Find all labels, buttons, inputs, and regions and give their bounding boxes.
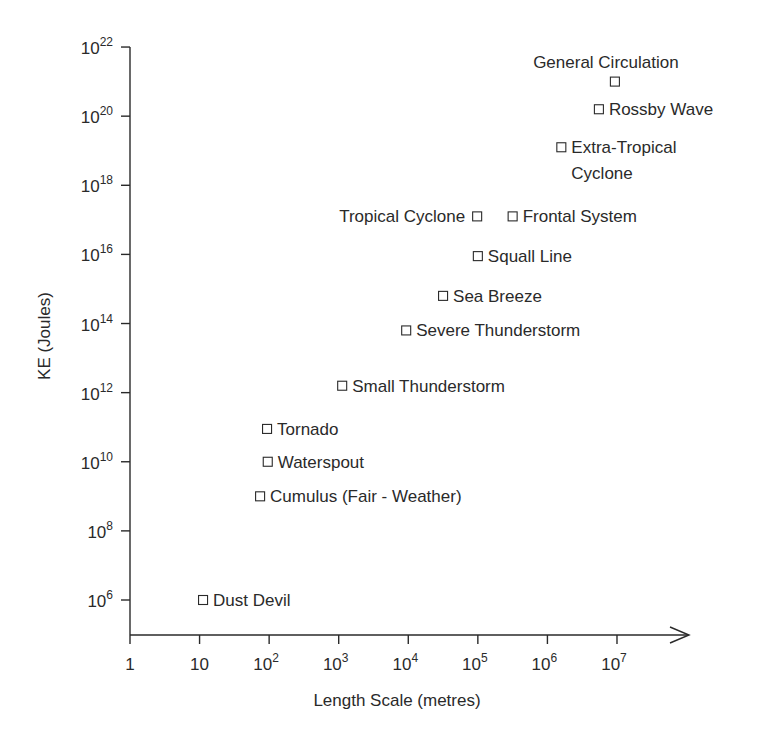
open-square-marker-icon <box>199 596 208 605</box>
y-axis-title: KE (Joules) <box>35 292 54 380</box>
data-point-label: Tropical Cyclone <box>339 207 465 226</box>
data-point-label: Cumulus (Fair - Weather) <box>270 487 461 506</box>
data-point-label: Extra-Tropical <box>571 138 676 157</box>
data-point: Frontal System <box>508 207 637 226</box>
data-point-label: Rossby Wave <box>609 100 713 119</box>
open-square-marker-icon <box>338 381 347 390</box>
data-point: General Circulation <box>533 53 679 87</box>
data-point: Cumulus (Fair - Weather) <box>256 487 462 506</box>
data-point-label: Waterspout <box>278 453 365 472</box>
open-square-marker-icon <box>473 212 482 221</box>
y-tick-label: 1018 <box>81 173 114 196</box>
open-square-marker-icon <box>508 212 517 221</box>
y-tick-label: 1022 <box>81 35 114 58</box>
x-ticks: 110102103104105106107 <box>125 635 627 674</box>
y-tick-label: 1020 <box>81 104 114 127</box>
ke-vs-length-scale-chart: 1061081010101210141016101810201022 11010… <box>0 0 764 747</box>
data-point: Sea Breeze <box>439 287 542 306</box>
data-point: Rossby Wave <box>594 100 713 119</box>
x-tick-label: 107 <box>601 651 627 674</box>
y-tick-label: 106 <box>87 588 113 611</box>
open-square-marker-icon <box>439 291 448 300</box>
data-point: Tornado <box>263 420 339 439</box>
open-square-marker-icon <box>402 326 411 335</box>
x-tick-label: 10 <box>190 655 209 674</box>
y-tick-label: 1014 <box>81 312 114 335</box>
data-point-label: General Circulation <box>533 53 679 72</box>
y-tick-label: 108 <box>87 519 113 542</box>
data-point: Dust Devil <box>199 591 291 610</box>
data-point: Severe Thunderstorm <box>402 321 581 340</box>
data-point: Small Thunderstorm <box>338 377 505 396</box>
x-axis-title: Length Scale (metres) <box>313 691 480 710</box>
x-tick-label: 103 <box>323 651 349 674</box>
x-axis: 110102103104105106107 <box>125 627 689 674</box>
open-square-marker-icon <box>610 77 619 86</box>
data-point-label: Small Thunderstorm <box>352 377 505 396</box>
data-point-label: Squall Line <box>488 247 572 266</box>
open-square-marker-icon <box>473 252 482 261</box>
data-point: Tropical Cyclone <box>339 207 481 226</box>
x-tick-label: 104 <box>392 651 418 674</box>
open-square-marker-icon <box>263 457 272 466</box>
open-square-marker-icon <box>594 105 603 114</box>
data-point: Extra-TropicalCyclone <box>557 138 677 183</box>
y-ticks: 1061081010101210141016101810201022 <box>81 35 130 611</box>
data-points: Dust DevilCumulus (Fair - Weather)Waters… <box>199 53 714 610</box>
data-point: Waterspout <box>263 453 364 472</box>
data-point-label: Cyclone <box>571 164 632 183</box>
x-tick-label: 102 <box>253 651 279 674</box>
x-tick-label: 105 <box>462 651 488 674</box>
open-square-marker-icon <box>557 143 566 152</box>
x-tick-label: 106 <box>532 651 558 674</box>
data-point: Squall Line <box>473 247 572 266</box>
data-point-label: Tornado <box>277 420 338 439</box>
y-axis: 1061081010101210141016101810201022 <box>81 35 130 635</box>
open-square-marker-icon <box>256 492 265 501</box>
y-tick-label: 1016 <box>81 242 114 265</box>
x-tick-label: 1 <box>125 655 134 674</box>
y-tick-label: 1010 <box>81 450 114 473</box>
data-point-label: Severe Thunderstorm <box>416 321 580 340</box>
data-point-label: Dust Devil <box>213 591 290 610</box>
data-point-label: Sea Breeze <box>453 287 542 306</box>
y-tick-label: 1012 <box>81 381 114 404</box>
data-point-label: Frontal System <box>523 207 637 226</box>
open-square-marker-icon <box>263 424 272 433</box>
